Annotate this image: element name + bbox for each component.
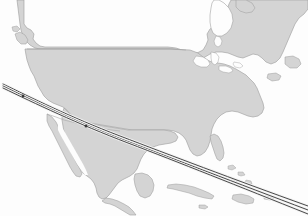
route-waypoint-mid (85, 125, 88, 128)
route-waypoint-west (22, 95, 25, 98)
map-canvas (0, 0, 308, 216)
map-figure (0, 0, 308, 216)
